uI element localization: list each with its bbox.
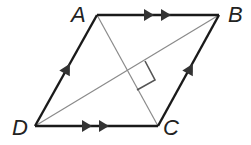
vertex-label-b: B [228, 4, 243, 26]
rhombus-diagram: A B C D [0, 0, 251, 145]
arrow-icon [161, 9, 171, 21]
arrow-icon [182, 61, 198, 76]
vertex-label-d: D [12, 117, 28, 139]
arrow-icon [82, 120, 92, 132]
arrow-icon [59, 61, 75, 76]
vertex-label-a: A [71, 4, 86, 26]
arrow-icon [144, 9, 154, 21]
vertex-label-c: C [163, 117, 179, 139]
right-angle-marker [137, 61, 155, 90]
diagram-drawing [0, 0, 251, 145]
arrow-icon [99, 120, 109, 132]
